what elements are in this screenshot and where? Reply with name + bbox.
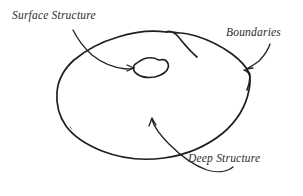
label-deep-structure: Deep Structure [188, 152, 260, 164]
stray-pen-mark [70, 127, 72, 129]
surface-structure-arrowhead [127, 65, 134, 71]
boundaries-arrow-line [248, 44, 270, 68]
inner-blob [134, 58, 169, 78]
outer-blob [57, 31, 250, 159]
label-boundaries: Boundaries [226, 26, 281, 38]
boundaries-arrowhead [246, 68, 253, 74]
diagram-canvas: Surface Structure Boundaries Deep Struct… [0, 0, 303, 196]
label-surface-structure: Surface Structure [12, 9, 96, 21]
